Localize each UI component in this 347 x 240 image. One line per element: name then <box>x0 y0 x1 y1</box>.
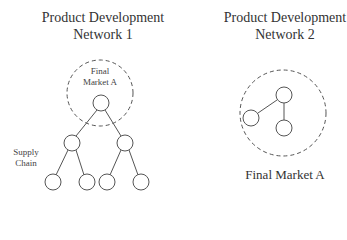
edge <box>258 100 277 113</box>
node-leaf <box>45 174 61 190</box>
node-left <box>243 110 259 126</box>
edge <box>56 150 68 175</box>
edge <box>76 150 84 175</box>
edge <box>129 150 138 175</box>
node-mid-left <box>64 135 80 151</box>
network2-graph <box>240 70 326 156</box>
edge <box>110 150 121 175</box>
market-label-1-line2: Market A <box>75 77 125 88</box>
node-root <box>93 95 109 111</box>
node-leaf <box>79 174 95 190</box>
edge <box>76 110 97 136</box>
edge <box>105 110 121 136</box>
node-mid-right <box>117 135 133 151</box>
supply-chain-label-line1: Supply <box>8 147 44 158</box>
node-leaf <box>133 174 149 190</box>
node-leaf <box>99 174 115 190</box>
supply-chain-label: Supply Chain <box>8 147 44 169</box>
node-top <box>276 87 292 103</box>
market-label-2: Final Market A <box>230 167 340 183</box>
market-label-1-line1: Final <box>75 66 125 77</box>
node-bottom <box>276 120 292 136</box>
market-label-1: Final Market A <box>75 66 125 88</box>
supply-chain-label-line2: Chain <box>8 158 44 169</box>
